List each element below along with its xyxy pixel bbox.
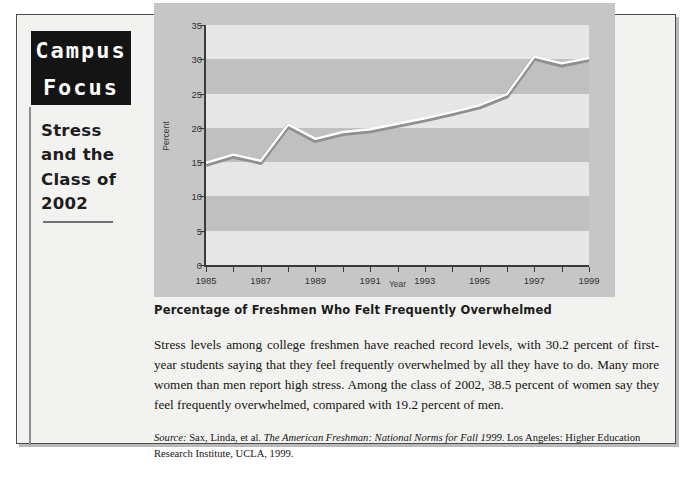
sidebar: Campus Focus Stress and the Class of 200… <box>17 15 142 445</box>
x-axis-tick-mark <box>206 267 207 272</box>
sidebar-divider <box>43 221 113 223</box>
x-axis-tick-mark <box>562 267 563 272</box>
x-axis-tick-mark <box>425 267 426 272</box>
y-axis-tick-mark <box>199 94 205 95</box>
kicker-focus: Focus <box>31 68 131 105</box>
x-axis-tick-mark <box>452 267 453 272</box>
x-axis-line <box>204 265 589 267</box>
x-axis-label: Year <box>206 279 589 289</box>
chart-caption: Percentage of Freshmen Who Felt Frequent… <box>154 303 659 317</box>
chart-inner: Percent 05101520253035 19851987198919911… <box>154 3 615 297</box>
x-axis-tick-mark <box>261 267 262 272</box>
data-series-line <box>206 25 589 265</box>
x-axis-tick-mark <box>233 267 234 272</box>
y-axis-tick-mark <box>199 59 205 60</box>
source-title: The American Freshman: National Norms fo… <box>264 432 502 443</box>
x-axis-tick-mark <box>288 267 289 272</box>
y-axis-tick-mark <box>199 231 205 232</box>
x-axis-tick-mark <box>480 267 481 272</box>
y-axis-tick-mark <box>199 128 205 129</box>
x-axis-tick-mark <box>589 267 590 272</box>
content-column: Percentage of Freshmen Who Felt Frequent… <box>154 303 659 461</box>
y-axis-tick-mark <box>199 265 205 266</box>
body-paragraph: Stress levels among college freshmen hav… <box>154 335 659 415</box>
kicker-campus: Campus <box>31 31 131 68</box>
y-axis-tick-mark <box>199 162 205 163</box>
x-axis-tick-mark <box>315 267 316 272</box>
source-label: Source: <box>154 432 187 443</box>
chart-panel: Percent 05101520253035 19851987198919911… <box>154 3 615 297</box>
x-axis-tick-mark <box>507 267 508 272</box>
series-line <box>206 57 589 163</box>
y-axis-label: Percent <box>161 96 171 176</box>
x-axis-tick-mark <box>370 267 371 272</box>
plot-wrap: 19851987198919911993199519971999 <box>206 25 589 265</box>
source-citation: Source: Sax, Linda, et al. The American … <box>154 430 659 461</box>
source-authors: Sax, Linda, et al. <box>187 432 264 443</box>
x-axis-tick-mark <box>398 267 399 272</box>
series-line-shadow <box>206 58 589 164</box>
y-axis-tick-labels: 05101520253035 <box>178 25 202 265</box>
x-axis-tick-mark <box>343 267 344 272</box>
sidebar-vertical-rule <box>29 107 31 445</box>
y-axis-tick-mark <box>199 196 205 197</box>
sidebar-headline: Stress and the Class of 2002 <box>41 119 137 217</box>
x-axis-tick-mark <box>534 267 535 272</box>
article-frame: Campus Focus Stress and the Class of 200… <box>16 14 676 444</box>
y-axis-tick-mark <box>199 25 205 26</box>
